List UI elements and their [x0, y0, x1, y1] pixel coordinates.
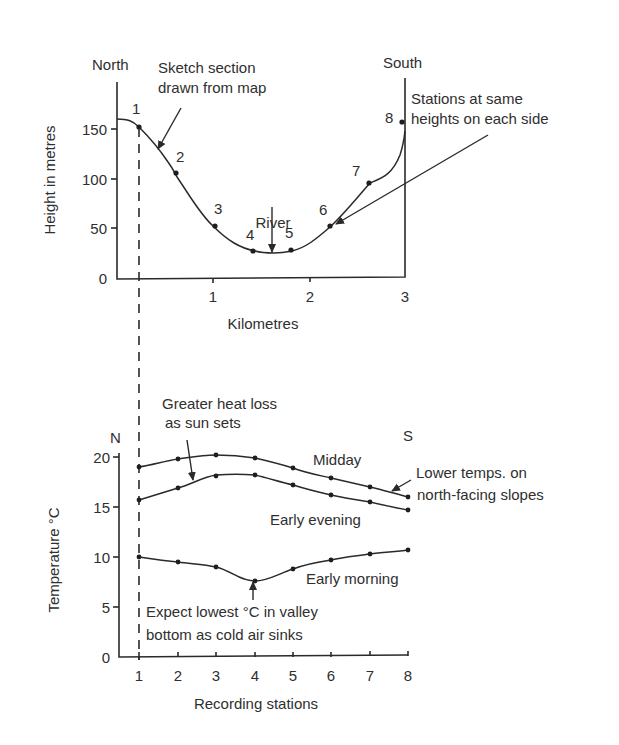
- svg-text:4: 4: [246, 226, 254, 243]
- stations-annotation-line2: heights on each side: [411, 110, 549, 127]
- top-x-axis-label: Kilometres: [228, 315, 299, 332]
- top-station-dots: [136, 119, 404, 253]
- svg-text:8: 8: [404, 667, 412, 684]
- top-ytick-100: 100: [82, 171, 107, 188]
- valley-profile-line: [117, 119, 405, 253]
- expect-annotation-line2: bottom as cold air sinks: [146, 626, 303, 643]
- heat-loss-annotation-line2: as sun sets: [165, 414, 241, 431]
- sketch-annotation-line2: drawn from map: [158, 79, 266, 96]
- early-evening-line: [139, 474, 408, 510]
- svg-text:1: 1: [132, 100, 140, 117]
- svg-text:5: 5: [102, 599, 110, 616]
- svg-text:6: 6: [327, 667, 335, 684]
- expect-annotation-line1: Expect lowest °C in valley: [146, 603, 318, 620]
- sketch-arrow-icon: [158, 108, 181, 149]
- svg-text:8: 8: [385, 109, 393, 126]
- top-axes: [117, 78, 405, 279]
- svg-text:2: 2: [176, 148, 184, 165]
- bottom-chart: N S 0 5 10 15 20 1 2 3 4 5: [45, 395, 544, 712]
- north-short-label: N: [110, 429, 121, 446]
- svg-text:6: 6: [319, 201, 327, 218]
- svg-text:20: 20: [93, 449, 110, 466]
- svg-text:15: 15: [93, 499, 110, 516]
- svg-text:3: 3: [214, 200, 222, 217]
- south-short-label: S: [403, 427, 413, 444]
- sketch-annotation-line1: Sketch section: [158, 59, 256, 76]
- svg-text:7: 7: [366, 667, 374, 684]
- svg-text:1: 1: [135, 667, 143, 684]
- north-label: North: [92, 56, 129, 73]
- early-evening-label: Early evening: [270, 511, 361, 528]
- heat-loss-arrow-icon: [187, 440, 193, 480]
- top-y-axis-label: Height in metres: [41, 125, 58, 234]
- top-ytick-50: 50: [90, 220, 107, 237]
- top-y-ticks: 0 50 100 150: [82, 121, 117, 287]
- bottom-x-axis-label: Recording stations: [194, 695, 318, 712]
- top-xtick-1: 1: [209, 288, 217, 305]
- svg-text:7: 7: [352, 162, 360, 179]
- lower-temps-annotation-line2: north-facing slopes: [417, 486, 544, 503]
- top-x-ticks: 1 2 3: [209, 277, 409, 305]
- top-ytick-150: 150: [82, 121, 107, 138]
- south-label: South: [383, 54, 422, 71]
- river-label: River: [255, 214, 290, 231]
- top-ytick-0: 0: [99, 270, 107, 287]
- top-chart: North South 0 50 100 150 1 2 3 Kilometre…: [41, 54, 549, 332]
- stations-arrow-icon: [336, 135, 488, 224]
- midday-dots: [137, 453, 411, 500]
- midday-label: Midday: [313, 451, 362, 468]
- early-evening-dots: [137, 473, 411, 513]
- bottom-y-axis-label: Temperature °C: [45, 507, 62, 612]
- bottom-y-ticks: 0 5 10 15 20: [93, 449, 119, 666]
- stations-annotation-line1: Stations at same: [411, 90, 523, 107]
- heat-loss-annotation-line1: Greater heat loss: [162, 395, 277, 412]
- midday-line: [139, 455, 408, 497]
- svg-text:4: 4: [251, 667, 259, 684]
- figure-canvas: North South 0 50 100 150 1 2 3 Kilometre…: [0, 0, 619, 745]
- svg-text:5: 5: [289, 667, 297, 684]
- svg-text:3: 3: [212, 667, 220, 684]
- top-xtick-3: 3: [401, 288, 409, 305]
- top-xtick-2: 2: [306, 288, 314, 305]
- early-morning-label: Early morning: [306, 570, 399, 587]
- svg-text:10: 10: [93, 549, 110, 566]
- svg-text:0: 0: [102, 649, 110, 666]
- svg-text:2: 2: [174, 667, 182, 684]
- lower-temps-arrow-icon: [392, 480, 411, 491]
- lower-temps-annotation-line1: Lower temps. on: [416, 464, 527, 481]
